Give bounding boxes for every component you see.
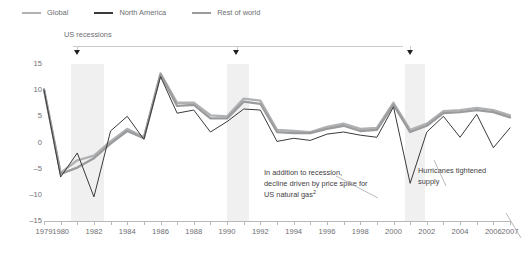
chart-root: GlobalNorth AmericaRest of world US rece…	[0, 0, 525, 255]
x-axis-tick	[410, 221, 411, 225]
y-axis-tick-label: –15	[0, 217, 42, 225]
x-axis-tick-label: 1984	[119, 228, 136, 236]
x-axis-tick-label: 1994	[285, 228, 302, 236]
x-axis-tick-label: 1988	[185, 228, 202, 236]
x-axis-tick	[44, 221, 45, 225]
x-axis-tick-label: 1996	[318, 228, 335, 236]
x-axis-tick	[360, 221, 361, 225]
x-axis-tick	[260, 221, 261, 225]
x-axis-tick-label: 1986	[152, 228, 169, 236]
legend-item-north-america[interactable]: North America	[94, 9, 166, 16]
y-axis-tick-label: 10	[0, 86, 42, 94]
y-axis: 151050–5–10–15	[0, 64, 42, 221]
annotation-footnote-marker: 2	[313, 189, 316, 195]
x-axis-tick-label: 1982	[85, 228, 102, 236]
x-axis-tick	[61, 221, 62, 225]
legend-item-rest-of-world[interactable]: Rest of world	[192, 9, 260, 16]
x-axis-tick	[77, 221, 78, 225]
x-axis-tick-label: 2000	[385, 228, 402, 236]
x-axis-tick	[244, 221, 245, 225]
legend-swatch-icon	[94, 12, 113, 14]
legend-label: Global	[47, 9, 68, 16]
x-axis-tick	[443, 221, 444, 225]
legend-swatch-icon	[192, 12, 211, 14]
natural-gas-annotation: In addition to recession, decline driven…	[264, 168, 368, 201]
x-axis-tick-label: 2006	[485, 228, 502, 236]
y-axis-tick-label: 5	[0, 113, 42, 121]
recession-arrow-icon-0	[74, 50, 80, 55]
x-axis-tick-label: 2004	[452, 228, 469, 236]
x-axis-tick	[377, 221, 378, 225]
x-axis-tick	[227, 221, 228, 225]
x-axis-tick	[194, 221, 195, 225]
legend-label: North America	[119, 9, 166, 16]
x-axis-tick-label: 1990	[219, 228, 236, 236]
chart-legend: GlobalNorth AmericaRest of world	[22, 6, 260, 20]
x-axis-tick	[294, 221, 295, 225]
y-axis-tick-label: –10	[0, 191, 42, 199]
x-axis-tick-label: 1979	[36, 228, 53, 236]
x-axis-tick	[460, 221, 461, 225]
x-axis-tick-label: 2007	[502, 228, 519, 236]
x-axis-tick-label: 1998	[352, 228, 369, 236]
legend-label: Rest of world	[217, 9, 260, 16]
x-axis-tick	[111, 221, 112, 225]
x-axis-tick	[344, 221, 345, 225]
x-axis-tick	[327, 221, 328, 225]
x-axis-tick	[94, 221, 95, 225]
x-axis-tick	[310, 221, 311, 225]
x-axis-tick	[277, 221, 278, 225]
x-axis-tick-label: 1992	[252, 228, 269, 236]
annotation-text: Hurricanes tightened supply	[418, 166, 486, 186]
recession-arrow-icon-1	[233, 50, 239, 55]
us-recessions-label: US recessions	[64, 31, 112, 38]
x-axis-tick	[427, 221, 428, 225]
y-axis-tick-label: 15	[0, 60, 42, 68]
legend-item-global[interactable]: Global	[22, 9, 68, 16]
hurricanes-annotation: Hurricanes tightened supply	[418, 166, 486, 187]
legend-swatch-icon	[22, 12, 41, 14]
series-line-global	[44, 73, 510, 172]
recession-arrow-icon-2	[407, 50, 413, 55]
x-axis-tick	[210, 221, 211, 225]
x-axis-tick	[177, 221, 178, 225]
series-line-rest-of-world	[44, 74, 510, 173]
x-axis-tick	[477, 221, 478, 225]
x-axis-tick	[161, 221, 162, 225]
x-axis-tick	[493, 221, 494, 225]
y-axis-tick-label: –5	[0, 165, 42, 173]
y-axis-tick-label: 0	[0, 139, 42, 147]
x-axis-tick	[394, 221, 395, 225]
x-axis-tick	[127, 221, 128, 225]
x-axis-tick-label: 2002	[418, 228, 435, 236]
x-axis-tick-label: 1980	[52, 228, 69, 236]
x-axis-tick	[144, 221, 145, 225]
x-axis-tick	[510, 221, 511, 225]
